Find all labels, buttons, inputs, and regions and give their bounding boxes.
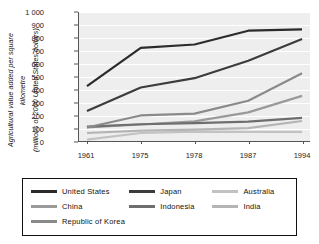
legend-swatch-icon: [212, 205, 238, 208]
y-tick-label: 600: [31, 60, 44, 69]
x-tick-label: 1994: [294, 151, 311, 160]
legend-swatch-icon: [129, 190, 155, 193]
x-tick-mark: [195, 141, 196, 144]
legend-item[interactable]: Japan: [129, 187, 212, 196]
y-tick-label: 400: [31, 86, 44, 95]
legend-swatch-icon: [31, 190, 57, 193]
legend-swatch-icon: [31, 205, 57, 208]
plot-area: [78, 12, 310, 142]
legend-swatch-icon: [129, 205, 155, 208]
legend-label: Japan: [160, 187, 181, 196]
legend-swatch-icon: [212, 190, 238, 193]
legend-label: China: [62, 202, 83, 211]
line-chart-figure: Agricultural value added per square kilo…: [0, 0, 319, 244]
legend-label: India: [243, 202, 260, 211]
legend-row: Republic of Korea: [31, 214, 288, 229]
x-tick-mark: [249, 141, 250, 144]
legend-item[interactable]: Republic of Korea: [31, 217, 135, 226]
y-tick-label: 500: [31, 73, 44, 82]
x-tick-label: 1987: [240, 151, 257, 160]
legend-row: United StatesJapanAustralia: [31, 184, 288, 199]
y-tick-label: 200: [31, 112, 44, 121]
y-tick-label: 900: [31, 21, 44, 30]
y-axis-title-line-1: Agricultural value added per square: [6, 14, 16, 166]
legend-row: ChinaIndonesiaIndia: [31, 199, 288, 214]
plot-container: 01002003004005006007008009001 000 196119…: [48, 12, 310, 164]
x-tick-label: 1978: [186, 151, 203, 160]
series-line: [87, 132, 302, 140]
legend-item[interactable]: India: [212, 202, 288, 211]
x-tick-mark: [303, 141, 304, 144]
x-tick-label: 1975: [132, 151, 149, 160]
series-lines: [79, 12, 310, 141]
y-tick-label: 300: [31, 99, 44, 108]
x-tick-mark: [141, 141, 142, 144]
y-axis-title-line-2: kilometre: [18, 14, 28, 166]
x-tick-label: 1961: [78, 151, 95, 160]
legend-label: Indonesia: [160, 202, 194, 211]
legend-label: United States: [62, 187, 110, 196]
y-tick-label: 800: [31, 34, 44, 43]
legend-label: Republic of Korea: [62, 217, 125, 226]
legend-item[interactable]: China: [31, 202, 129, 211]
y-tick-label: 700: [31, 47, 44, 56]
legend-label: Australia: [243, 187, 274, 196]
y-tick-label: 100: [31, 125, 44, 134]
y-tick-label: 0: [40, 138, 44, 147]
series-line: [87, 39, 302, 111]
legend-swatch-icon: [31, 220, 57, 223]
y-tick-label: 1 000: [25, 8, 44, 17]
legend-item[interactable]: United States: [31, 187, 129, 196]
chart-legend: United StatesJapanAustraliaChinaIndonesi…: [22, 178, 297, 236]
x-tick-mark: [87, 141, 88, 144]
legend-item[interactable]: Indonesia: [129, 202, 212, 211]
legend-item[interactable]: Australia: [212, 187, 288, 196]
